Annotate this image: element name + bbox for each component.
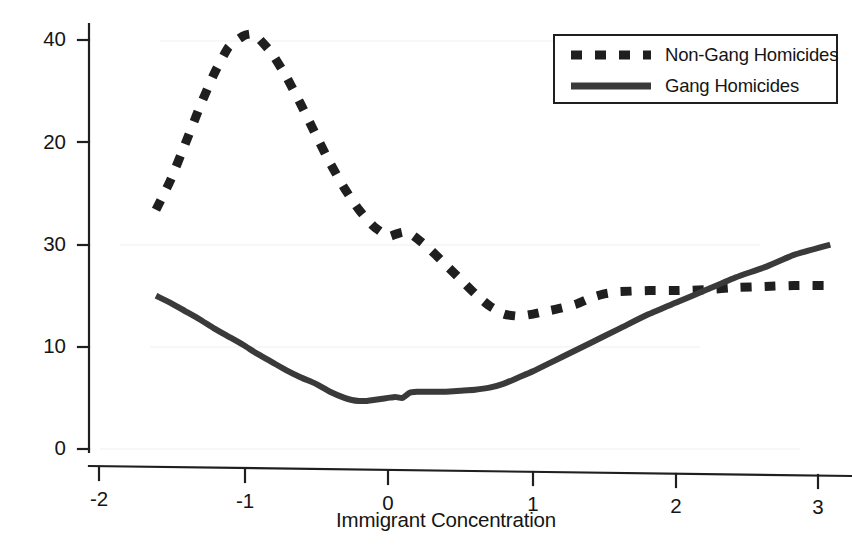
legend-label-non-gang: Non-Gang Homicides [665, 44, 838, 66]
legend-dashed-line-icon [569, 48, 653, 62]
series-line-gang [156, 245, 830, 401]
legend-solid-line-icon [569, 79, 653, 93]
y-axis [78, 24, 89, 452]
legend-entry-non-gang: Non-Gang Homicides [555, 38, 836, 72]
ytick-label-30: 30 [18, 232, 66, 256]
ytick-label-10: 10 [18, 334, 66, 358]
x-axis-title-wrapper: Immigrant Concentration [0, 508, 852, 532]
ytick-label-40: 40 [18, 27, 66, 51]
x-axis-title: Immigrant Concentration [336, 508, 556, 531]
chart-figure: 40 30 20 10 0 -2 -1 0 1 2 3 1995 Homicid… [0, 0, 852, 553]
x-axis [89, 466, 852, 488]
chart-legend: Non-Gang Homicides Gang Homicides [553, 34, 838, 104]
ytick-label-0: 0 [18, 436, 66, 460]
ytick-label-20: 20 [18, 130, 66, 154]
legend-entry-gang: Gang Homicides [555, 69, 836, 103]
legend-label-gang: Gang Homicides [665, 75, 799, 97]
